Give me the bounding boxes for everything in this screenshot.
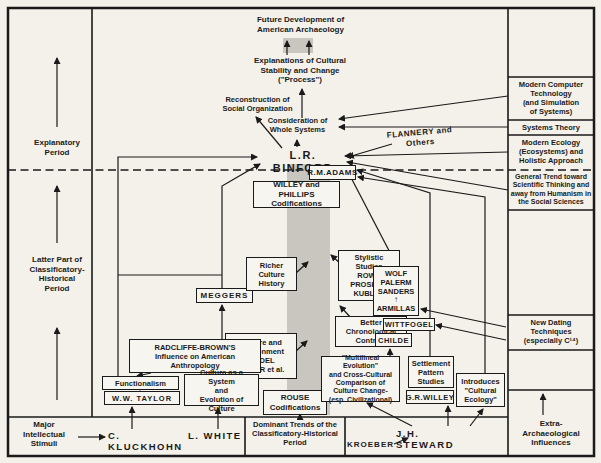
- modern-computer-label: Modern Computer Technology (and Simulati…: [510, 80, 592, 116]
- childe-box: CHILDE: [375, 333, 412, 347]
- wittfogel-box: WITTFOGEL: [383, 318, 435, 331]
- reconstruction-label: Reconstruction of Social Organization: [210, 95, 305, 113]
- richer-culture-history-box: Richer Culture History: [246, 257, 297, 291]
- wolf-palerm-sanders-box: WOLF PALERM SANDERS ↑ ARMILLAS: [373, 266, 419, 316]
- multilineal-evolution-box: "Multilineal Evolution" and Cross-Cultur…: [321, 356, 400, 402]
- functionalism-box: Functionalism: [102, 376, 179, 390]
- meggers-box: MEGGERS: [196, 288, 253, 303]
- general-trend-label: General Trend toward Scientific Thinking…: [509, 173, 593, 207]
- adams-box: R.M.ADAMS: [309, 165, 356, 180]
- willey-phillips-box: WILLEY and PHILLIPS Codifications: [253, 181, 340, 208]
- steward-label: J.H. STEWARD: [396, 428, 476, 451]
- gr-willey-box: G.R.WILLEY: [406, 390, 454, 404]
- new-dating-label: New Dating Techniques (especially C¹⁴): [510, 318, 592, 345]
- rouse-box: ROUSE Codifications: [263, 390, 327, 415]
- archaeology-development-diagram: Explanatory Period Latter Part of Classi…: [0, 0, 601, 463]
- cultural-ecology-box: Introduces "Cultural Ecology": [456, 373, 505, 407]
- culture-as-system-box: Culture as a System and Evolution of Cul…: [184, 374, 259, 406]
- wolf-palerm-sanders-label: WOLF PALERM SANDERS: [378, 269, 415, 296]
- major-stimuli-label: Major Intellectual Stimuli: [12, 420, 76, 449]
- up-arrow-icon: ↑: [394, 296, 398, 304]
- dominant-trends-label: Dominant Trends of the Classificatory-Hi…: [247, 420, 343, 447]
- extra-archaeological-label: Extra- Archaeological Influences: [510, 419, 592, 448]
- systems-theory-label: Systems Theory: [510, 123, 592, 132]
- kroeber-label: KROEBER: [347, 440, 402, 450]
- whole-systems-label: Consideration of Whole Systems: [255, 116, 340, 134]
- ww-taylor-box: W.W. TAYLOR: [104, 391, 180, 405]
- latter-part-period-label: Latter Part of Classificatory- Historica…: [14, 255, 100, 293]
- settlement-pattern-box: Settlement Pattern Studies: [408, 356, 454, 388]
- armillas-label: ARMILLAS: [377, 304, 416, 313]
- modern-ecology-label: Modern Ecology (Ecosystems) and Holistic…: [510, 138, 592, 165]
- explanations-label: Explanations of Cultural Stability and C…: [225, 56, 375, 85]
- future-development-label: Future Development of American Archaeolo…: [218, 15, 383, 34]
- white-label: L. WHITE: [188, 430, 248, 441]
- explanatory-period-label: Explanatory Period: [18, 138, 96, 157]
- kluckhohn-label: C. KLUCKHOHN: [108, 430, 188, 453]
